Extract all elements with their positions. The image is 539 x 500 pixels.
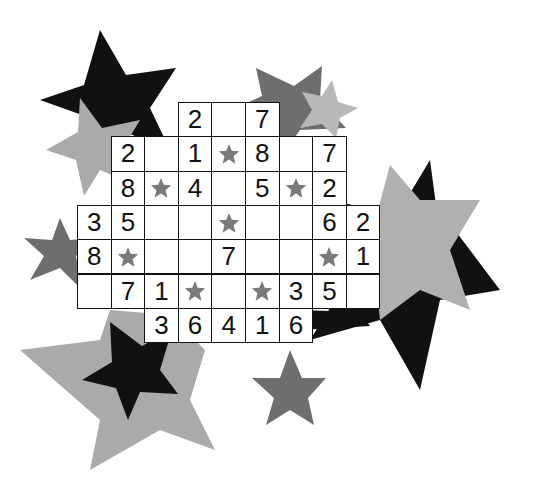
grid-cell[interactable] [211, 274, 246, 309]
grid-cell[interactable]: 5 [111, 205, 146, 240]
star-icon [285, 177, 307, 199]
grid-cell[interactable] [245, 205, 280, 240]
grid-cell[interactable]: 1 [346, 239, 381, 274]
grid-cell[interactable] [211, 102, 246, 137]
grid-cell[interactable]: 2 [111, 136, 146, 171]
grid-cell[interactable]: 7 [111, 274, 146, 309]
star-icon [218, 212, 240, 234]
grid-cell[interactable]: 8 [245, 136, 280, 171]
grid-cell[interactable]: 8 [77, 239, 112, 274]
grid-cell[interactable]: 6 [279, 308, 314, 343]
star-icon [251, 280, 273, 302]
grid-cell[interactable] [279, 171, 314, 206]
grid-cell[interactable]: 3 [144, 308, 179, 343]
star-icon [318, 246, 340, 268]
star-icon [150, 177, 172, 199]
grid-cell[interactable]: 2 [312, 171, 347, 206]
grid-cell[interactable] [279, 136, 314, 171]
grid-cell[interactable]: 7 [312, 136, 347, 171]
grid-cell[interactable] [312, 239, 347, 274]
grid-cell[interactable]: 8 [111, 171, 146, 206]
grid-cell[interactable]: 3 [77, 205, 112, 240]
grid-cell[interactable]: 1 [178, 136, 213, 171]
grid-cell[interactable]: 6 [178, 308, 213, 343]
grid-cell[interactable]: 1 [144, 274, 179, 309]
grid-cell[interactable]: 3 [279, 274, 314, 309]
grid-cell[interactable]: 2 [178, 102, 213, 137]
grid-cell[interactable]: 4 [178, 171, 213, 206]
grid-cell[interactable] [144, 171, 179, 206]
grid-cell[interactable]: 2 [346, 205, 381, 240]
grid-cell[interactable] [211, 136, 246, 171]
grid-cell[interactable] [178, 205, 213, 240]
grid-cell[interactable]: 1 [245, 308, 280, 343]
grid-cell[interactable] [279, 239, 314, 274]
grid-cell[interactable]: 4 [211, 308, 246, 343]
star-icon [218, 143, 240, 165]
grid-cell[interactable]: 7 [211, 239, 246, 274]
star-icon [252, 350, 326, 425]
grid-cell[interactable]: 6 [312, 205, 347, 240]
grid-cell[interactable]: 5 [245, 171, 280, 206]
grid-cell[interactable]: 7 [245, 102, 280, 137]
grid-cell[interactable]: 5 [312, 274, 347, 309]
grid-cell[interactable] [111, 239, 146, 274]
grid-cell[interactable] [144, 136, 179, 171]
grid-cell[interactable] [245, 274, 280, 309]
star-icon [184, 280, 206, 302]
grid-cell[interactable] [178, 239, 213, 274]
grid-cell[interactable] [245, 239, 280, 274]
grid-cell[interactable] [211, 171, 246, 206]
grid-cell[interactable] [279, 205, 314, 240]
grid-cell[interactable] [144, 239, 179, 274]
star-icon [117, 246, 139, 268]
grid-cell[interactable] [178, 274, 213, 309]
grid-cell[interactable] [211, 205, 246, 240]
grid-cell[interactable] [77, 274, 112, 309]
grid-cell[interactable] [144, 205, 179, 240]
grid-cell[interactable] [346, 274, 381, 309]
